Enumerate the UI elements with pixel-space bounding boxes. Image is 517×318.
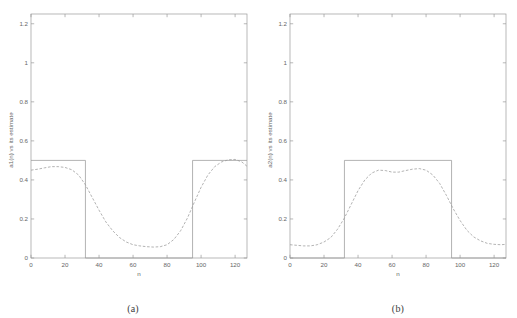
plot-b-canvas: 02040608010012000.20.40.60.811.2na2(n) v… [259,0,517,300]
series-estimate-line [31,159,247,247]
y-tick-label: 0.4 [19,176,28,183]
x-tick-label: 100 [455,261,466,268]
x-tick-label: 0 [288,261,292,268]
x-axis-title: n [396,270,400,277]
y-axis-title: a1(n) vs its estimate [7,112,14,168]
series-true-line [290,160,506,258]
series-estimate-line [290,169,506,246]
y-tick-label: 1 [284,59,288,66]
y-tick-label: 0 [25,254,29,261]
figure-container: 02040608010012000.20.40.60.811.2na1(n) v… [0,0,517,318]
y-axis-title: a2(n) vs its estimate [266,112,273,168]
y-tick-label: 1.2 [278,20,287,27]
series-true-line [31,160,247,258]
x-tick-label: 20 [321,261,328,268]
axes-frame [31,14,247,258]
x-tick-label: 40 [96,261,103,268]
y-tick-label: 0.8 [19,98,28,105]
x-axis-title: n [137,270,141,277]
x-tick-label: 120 [489,261,500,268]
x-tick-label: 80 [423,261,430,268]
x-tick-label: 80 [164,261,171,268]
plot-a-canvas: 02040608010012000.20.40.60.811.2na1(n) v… [0,0,258,300]
x-tick-label: 20 [62,261,69,268]
x-tick-label: 60 [130,261,137,268]
x-tick-label: 40 [355,261,362,268]
panel-a-caption: (a) [0,303,262,314]
y-tick-label: 0.8 [278,98,287,105]
x-tick-label: 0 [29,261,33,268]
y-tick-label: 0.2 [19,215,28,222]
y-tick-label: 0.2 [278,215,287,222]
y-tick-label: 0.4 [278,176,287,183]
x-tick-label: 100 [196,261,207,268]
y-tick-label: 0.6 [19,137,28,144]
y-tick-label: 1.2 [19,20,28,27]
x-tick-label: 60 [389,261,396,268]
panel-b-caption: (b) [259,303,517,314]
plot-panel-b: 02040608010012000.20.40.60.811.2na2(n) v… [259,0,517,318]
plot-panel-a: 02040608010012000.20.40.60.811.2na1(n) v… [0,0,258,318]
x-tick-label: 120 [230,261,241,268]
y-tick-label: 0.6 [278,137,287,144]
y-tick-label: 1 [25,59,29,66]
y-tick-label: 0 [284,254,288,261]
axes-frame [290,14,506,258]
